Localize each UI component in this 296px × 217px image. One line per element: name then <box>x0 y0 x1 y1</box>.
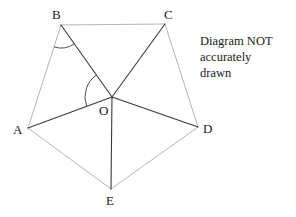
vertex-label-A: A <box>13 123 22 136</box>
pentagon-edge-ea <box>28 128 111 189</box>
spoke-oe <box>111 97 112 189</box>
pentagon-edge-de <box>111 127 198 189</box>
pentagon-outline <box>28 24 198 189</box>
pentagon-edge-bc <box>61 24 165 25</box>
pentagon-edge-cd <box>165 24 198 127</box>
vertex-label-C: C <box>164 8 173 21</box>
angle-arc-o <box>85 75 96 106</box>
diagram-canvas: A B C D E O Diagram NOT accurately drawn <box>0 0 296 217</box>
vertex-label-O: O <box>99 104 108 117</box>
angle-arcs <box>54 44 96 107</box>
angle-arc-b <box>54 44 74 48</box>
spoke-od <box>112 97 198 127</box>
vertex-label-B: B <box>52 8 61 21</box>
pentagon-edge-ab <box>28 25 61 128</box>
not-accurately-drawn-note: Diagram NOT accurately drawn <box>200 33 294 81</box>
vertex-label-D: D <box>203 122 212 135</box>
spoke-oc <box>112 24 165 97</box>
spoke-ob <box>61 25 112 97</box>
vertex-label-E: E <box>106 194 114 207</box>
